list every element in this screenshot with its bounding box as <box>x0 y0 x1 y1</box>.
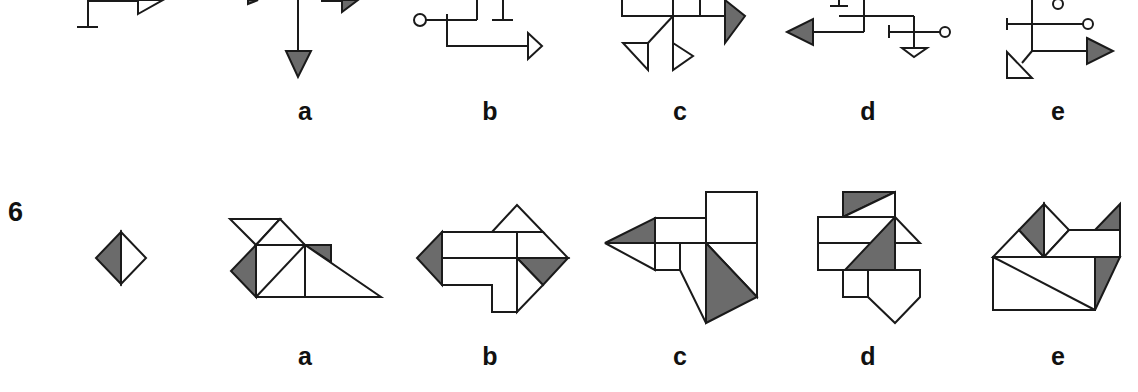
row1-option-e-label: e <box>1051 97 1065 126</box>
q6-prompt-diamond <box>96 232 146 284</box>
q6-option-e-label: e <box>1051 342 1065 371</box>
row1-option-d-label: d <box>860 97 875 126</box>
row1-option-b-label: b <box>482 97 497 126</box>
row1-option-e-figure <box>1007 0 1113 78</box>
q6-option-b-label: b <box>482 342 497 371</box>
row1-prompt-figure <box>77 0 163 27</box>
q6-option-a-figure <box>230 219 381 297</box>
row1-option-d-figure <box>787 0 950 57</box>
q6-option-a-label: a <box>298 342 312 371</box>
q6-option-d-label: d <box>860 342 875 371</box>
row1-option-c-figure <box>622 0 745 70</box>
q6-option-e-figure <box>993 204 1120 310</box>
row1-option-b-figure <box>414 0 542 59</box>
q6-option-b-figure <box>417 205 568 312</box>
q6-option-c-label: c <box>673 342 687 371</box>
row1-option-c-label: c <box>673 97 687 126</box>
puzzle-figure <box>0 0 1138 392</box>
row1-option-a-figure <box>248 0 358 77</box>
question-number: 6 <box>8 197 23 228</box>
q6-option-c-figure <box>605 192 757 323</box>
q6-option-d-figure <box>818 192 920 323</box>
row1-option-a-label: a <box>298 97 312 126</box>
